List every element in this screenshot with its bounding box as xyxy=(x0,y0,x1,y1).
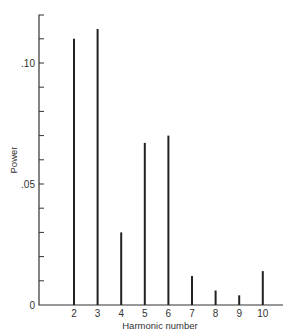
axis-lines xyxy=(39,15,283,305)
bars xyxy=(74,29,263,305)
y-ticks: 0.05.10 xyxy=(21,39,44,311)
x-tick-labels: 2345678910 xyxy=(71,308,269,319)
x-tick-label: 5 xyxy=(142,308,148,319)
y-tick-label: .10 xyxy=(21,58,35,69)
x-tick-label: 4 xyxy=(118,308,124,319)
y-axis-label: Power xyxy=(8,147,19,174)
axes xyxy=(39,15,283,305)
y-tick-label: .05 xyxy=(21,179,35,190)
x-tick-label: 7 xyxy=(189,308,195,319)
x-axis-label: Harmonic number xyxy=(122,320,198,331)
x-tick-label: 2 xyxy=(71,308,77,319)
x-tick-label: 8 xyxy=(213,308,219,319)
x-tick-label: 3 xyxy=(95,308,101,319)
x-tick-label: 9 xyxy=(236,308,242,319)
y-tick-label: 0 xyxy=(29,300,35,311)
x-tick-label: 10 xyxy=(257,308,269,319)
x-tick-label: 6 xyxy=(166,308,172,319)
power-spectrum-chart: 0.05.10 2345678910 Harmonic number Power xyxy=(0,0,296,336)
